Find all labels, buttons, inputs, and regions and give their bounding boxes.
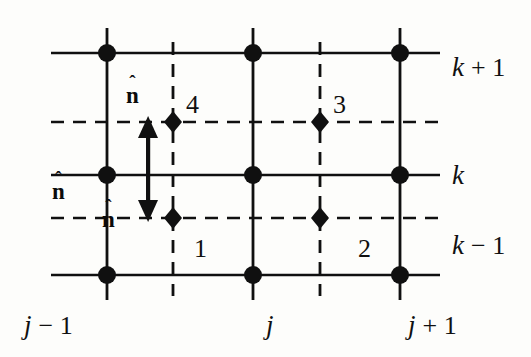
column-label-j-minus-1-base: j [24,310,32,340]
face-point-3 [311,111,329,133]
node-j-kp1 [244,44,262,62]
row-label-k-base: k [452,160,464,190]
row-label-k-plus-1-op: + 1 [464,53,505,82]
face-point-1 [164,207,182,229]
normal-vector-label-top: ˆ n [126,77,139,107]
normal-bottom-symbol: n [102,210,115,231]
node-j-km1 [244,266,262,284]
cell-number-1: 1 [194,236,207,262]
column-label-j-minus-1-op: − 1 [32,311,73,340]
arrow-head-up [138,116,158,138]
node-jp1-km1 [391,266,409,284]
node-jm1-k [98,166,116,184]
figure-canvas: k + 1 k k − 1 j − 1 j j + 1 4 3 1 2 ˆ n … [0,0,531,357]
face-point-2 [311,207,329,229]
row-label-k-plus-1: k + 1 [452,54,505,81]
normal-vector-label-bottom: ˆ n [102,201,115,231]
node-jm1-km1 [98,266,116,284]
solid-horizontal-lines [51,53,440,275]
double-headed-normal-arrow [138,116,158,222]
cell-number-4: 4 [186,92,199,118]
node-jp1-kp1 [391,44,409,62]
row-label-k-minus-1-op: − 1 [464,231,505,260]
row-label-k-plus-1-base: k [452,52,464,82]
node-jp1-k [391,166,409,184]
node-j-k [244,166,262,184]
column-label-j-minus-1: j − 1 [24,312,73,339]
row-label-k-minus-1: k − 1 [452,232,505,259]
row-label-k-minus-1-base: k [452,230,464,260]
column-label-j: j [266,312,274,339]
face-point-4 [164,111,182,133]
normal-top-symbol: n [126,86,139,107]
column-label-j-plus-1-base: j [408,310,416,340]
column-label-j-plus-1: j + 1 [408,312,457,339]
row-label-k: k [452,162,464,189]
cell-number-2: 2 [358,236,371,262]
cell-number-3: 3 [333,92,346,118]
normal-left-symbol: n [52,182,65,203]
normal-vector-label-left: ˆ n [52,173,65,203]
solid-vertical-lines [107,28,400,300]
column-label-j-base: j [266,310,274,340]
column-label-j-plus-1-op: + 1 [416,311,457,340]
node-jm1-kp1 [98,44,116,62]
